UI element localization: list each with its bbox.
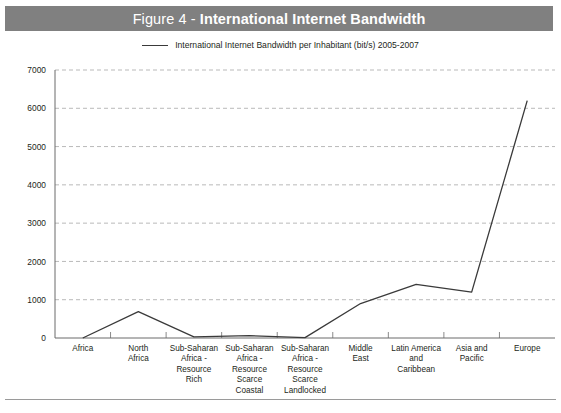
- bottom-divider: [5, 399, 556, 400]
- y-axis-tick-label: 3000: [27, 218, 46, 228]
- x-axis-category-label: Latin Americaand Caribbean: [388, 344, 444, 404]
- data-series-line: [83, 101, 527, 338]
- y-axis-tick-label: 2000: [27, 257, 46, 267]
- line-swatch-icon: [142, 45, 168, 46]
- x-axis-category-labels: AfricaNorthAfricaSub-SaharanAfrica -Reso…: [55, 344, 555, 404]
- x-axis-category-label: Europe: [500, 344, 556, 404]
- page-title: Figure 4 - International Internet Bandwi…: [133, 11, 426, 27]
- y-axis-tick-label: 6000: [27, 103, 46, 113]
- x-axis-category-label: MiddleEast: [333, 344, 389, 404]
- chart-legend: International Internet Bandwidth per Inh…: [0, 40, 561, 50]
- figure-title-prefix: Figure 4 -: [133, 11, 200, 27]
- y-axis-tick-label: 7000: [27, 65, 46, 75]
- y-axis-tick-label: 1000: [27, 295, 46, 305]
- chart-plot-region: 01000200030004000500060007000: [0, 62, 561, 352]
- figure-title-band: Figure 4 - International Internet Bandwi…: [5, 6, 553, 31]
- x-axis-category-label: Africa: [55, 344, 111, 404]
- x-axis-category-label: NorthAfrica: [111, 344, 167, 404]
- y-axis-tick-labels: 01000200030004000500060007000: [27, 65, 46, 343]
- x-axis-category-label: Sub-SaharanAfrica -ResourceScarceCoastal: [222, 344, 278, 404]
- line-chart: 01000200030004000500060007000: [0, 62, 561, 352]
- x-axis-category-label: Asia andPacific: [444, 344, 500, 404]
- x-axis-category-label: Sub-SaharanAfrica -ResourceScarceLandloc…: [277, 344, 333, 404]
- y-axis-tick-label: 4000: [27, 180, 46, 190]
- y-axis-tick-label: 5000: [27, 142, 46, 152]
- legend-item-label: International Internet Bandwidth per Inh…: [175, 40, 419, 50]
- x-axis-category-label: Sub-SaharanAfrica -Resource Rich: [166, 344, 222, 404]
- figure-title-main: International Internet Bandwidth: [200, 11, 426, 27]
- y-axis-tick-label: 0: [41, 333, 46, 343]
